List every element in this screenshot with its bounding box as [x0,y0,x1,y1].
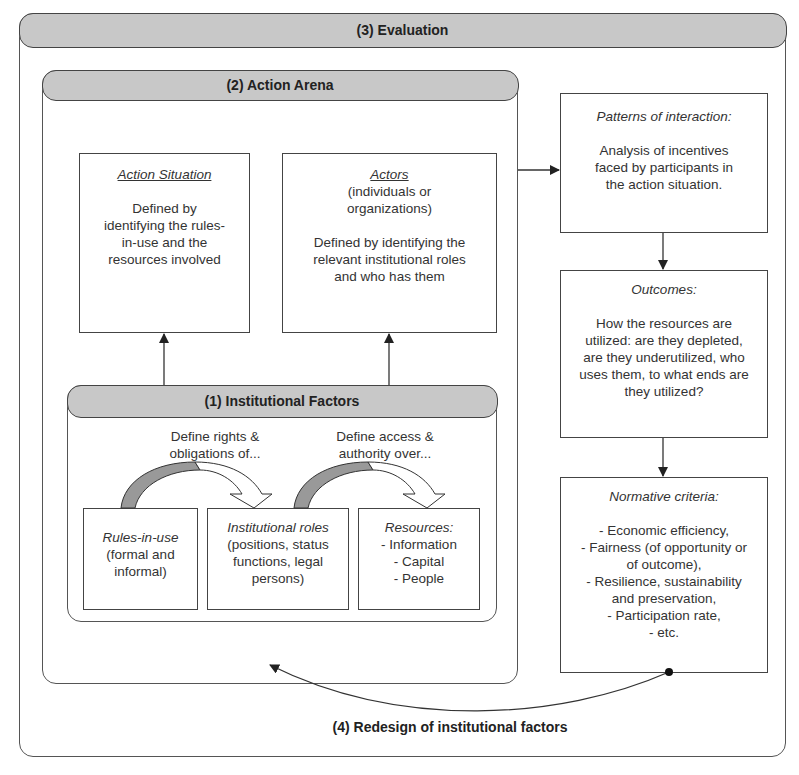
curved-arrow-rights [121,458,282,508]
redesign-arrow [270,665,669,711]
connectors [0,0,799,775]
curved-arrow-access [294,462,445,508]
redesign-origin-dot [665,668,673,676]
